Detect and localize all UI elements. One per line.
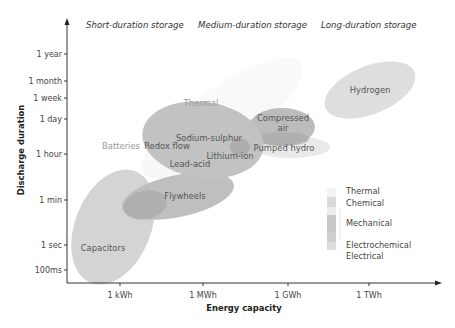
legend: Thermal Chemical Mechanical Electrochemi… — [327, 186, 411, 261]
label-compressed-air-1: Compressed — [257, 113, 309, 123]
legend-label-electrochemical: Electrochemical — [346, 240, 411, 250]
legend-label-mechanical: Mechanical — [346, 218, 392, 228]
x-tick-label: 1 GWh — [275, 291, 302, 300]
legend-swatch-thermal — [327, 188, 336, 197]
label-pumped-hydro: Pumped hydro — [254, 143, 315, 153]
label-lithium-ion: Lithium-ion — [206, 151, 253, 161]
y-tick-label: 100ms — [35, 266, 62, 275]
label-capacitors: Capacitors — [81, 243, 126, 253]
label-hydrogen: Hydrogen — [350, 85, 391, 95]
y-tick-label: 1 sec — [41, 241, 62, 250]
label-compressed-air-2: air — [278, 123, 289, 133]
x-axis-label: Energy capacity — [206, 303, 282, 313]
label-lead-acid: Lead-acid — [170, 159, 211, 169]
y-tick-label: 1 min — [39, 196, 62, 205]
y-axis-label: Discharge duration — [16, 105, 26, 195]
legend-label-thermal: Thermal — [345, 186, 380, 196]
category-short-duration: Short-duration storage — [86, 20, 184, 30]
legend-label-chemical: Chemical — [346, 198, 384, 208]
x-tick-label: 1 TWh — [356, 291, 382, 300]
energy-storage-chart: Short-duration storage Medium-duration s… — [0, 0, 455, 328]
y-tick-label: 1 month — [28, 77, 62, 86]
y-ticks: 1 year 1 month 1 week 1 day 1 hour 1 min… — [28, 50, 67, 275]
label-sodium-sulphur: Sodium-sulphur — [176, 133, 243, 143]
x-tick-label: 1 kWh — [107, 291, 132, 300]
label-flywheels: Flywheels — [164, 191, 205, 201]
y-tick-label: 1 year — [37, 50, 63, 59]
category-long-duration: Long-duration storage — [321, 20, 417, 30]
y-tick-label: 1 hour — [36, 150, 63, 159]
region-capacitors — [55, 157, 170, 297]
legend-label-electrical: Electrical — [346, 251, 384, 261]
label-thermal: Thermal — [183, 98, 219, 108]
y-tick-label: 1 day — [40, 115, 63, 124]
label-batteries: Batteries — [102, 141, 140, 151]
y-tick-label: 1 week — [33, 94, 62, 103]
legend-swatch-electrochemical — [327, 232, 336, 242]
x-tick-label: 1 MWh — [189, 291, 217, 300]
x-ticks: 1 kWh 1 MWh 1 GWh 1 TWh — [107, 283, 381, 300]
legend-swatch-mechanical — [327, 215, 336, 232]
category-medium-duration: Medium-duration storage — [198, 20, 307, 30]
y-axis-arrow-icon — [65, 18, 70, 25]
legend-swatch-electrical — [327, 242, 336, 250]
x-axis-arrow-icon — [435, 281, 442, 286]
legend-swatch-chemical — [327, 197, 336, 207]
legend-swatch-mechanical-light — [327, 207, 336, 215]
